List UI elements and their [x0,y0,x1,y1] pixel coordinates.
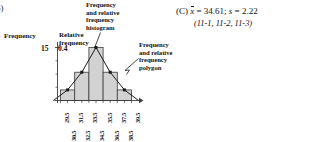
histogram-bar [75,72,89,100]
histogram-bar [103,72,117,100]
polygon-point-marker [109,71,112,74]
polygon-point-marker [66,88,69,91]
polygon-leader-line [125,59,139,71]
polygon-leader-arrow [125,70,130,75]
polygon-point-marker [80,71,83,74]
answer-choice: (C) x = 34.61; s = 2.22 [176,6,258,16]
sample-mean-symbol: x [190,6,194,16]
answer-objective-references: (11-1, 11-2, 11-3) [194,19,252,28]
histogram-bar [61,90,75,101]
frequency-histogram-chart [0,0,312,142]
histogram-bars [61,48,132,101]
histogram-leader-line [95,33,101,49]
sample-sd-value: = 2.22 [232,6,257,16]
sample-mean-value: = 34.61; [194,6,229,16]
figure-page: b) Frequency Relative frequency 15 0.4 F… [0,0,312,142]
histogram-bar [117,90,131,101]
answer-choice-letter: (C) [176,6,188,16]
polygon-point-marker [123,88,126,91]
x-axis-arrowhead [139,98,144,103]
